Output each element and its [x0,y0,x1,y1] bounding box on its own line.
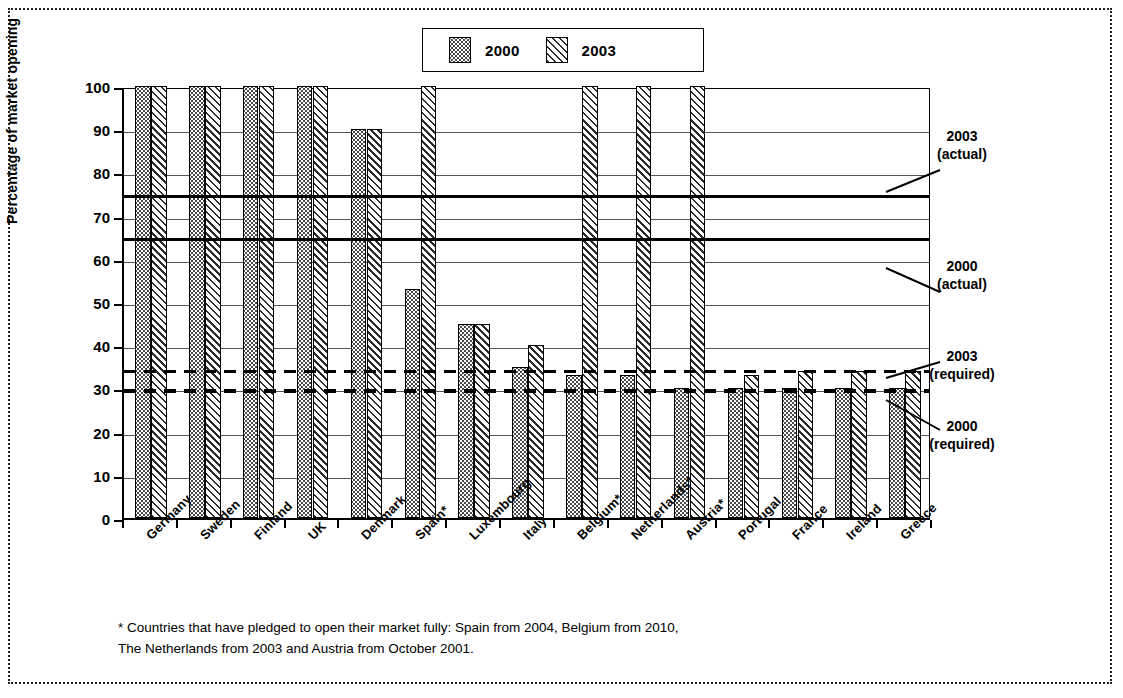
y-tick-label: 90 [66,122,110,139]
bar-group [782,371,814,518]
bar-denmark-2000 [351,129,367,518]
bar-luxembourg-2000 [458,324,474,518]
annotation-year: 2003 [937,128,987,146]
bar-france-2003 [798,371,814,518]
bar-group [458,324,490,518]
x-tick-mark [768,520,770,528]
x-tick-mark [553,520,555,528]
bar-ireland-2003 [851,371,867,518]
bar-group [566,86,598,518]
footnote-line-1: * Countries that have pledged to open th… [118,618,818,639]
bar-france-2000 [782,388,798,518]
bar-denmark-2003 [367,129,383,518]
bar-germany-2000 [135,86,151,518]
bar-sweden-2003 [205,86,221,518]
x-tick-mark [122,520,124,528]
annotation-qualifier: (actual) [937,276,987,294]
bar-spain-2000 [405,289,421,518]
x-tick-mark [661,520,663,528]
bar-uk-2000 [297,86,313,518]
y-tick-mark [114,88,122,90]
y-tick-label: 40 [66,338,110,355]
y-tick-mark [114,304,122,306]
x-tick-mark [930,520,932,528]
bar-greece-2000 [889,388,905,518]
bar-group [728,375,760,518]
bar-group [674,86,706,518]
annotation-year: 2000 [937,258,987,276]
y-tick-label: 60 [66,252,110,269]
reference-line-2003-required- [124,370,929,374]
figure-frame: 2000 2003 Percentage of market opening 0… [8,8,1112,684]
x-tick-mark [607,520,609,528]
x-tick-mark [391,520,393,528]
bar-netherlands-2000 [620,375,636,518]
y-tick-mark [114,477,122,479]
bar-group [835,371,867,518]
x-tick-mark [176,520,178,528]
bar-group [405,86,437,518]
y-tick-mark [114,347,122,349]
x-axis-label-uk: UK [305,518,329,542]
annotation-year: 2000 [929,418,994,436]
y-tick-mark [114,434,122,436]
bar-belgium-2003 [582,86,598,518]
bar-group [351,129,383,518]
bar-group [243,86,275,518]
x-tick-mark [822,520,824,528]
x-tick-mark [284,520,286,528]
y-tick-label: 50 [66,295,110,312]
y-tick-mark [114,520,122,522]
bar-germany-2003 [151,86,167,518]
bar-greece-2003 [905,371,921,518]
y-tick-label: 10 [66,468,110,485]
reference-line-2003-actual- [124,195,929,198]
annotation-a2000actual: 2000(actual) [937,258,987,294]
bar-netherlands-2003 [636,86,652,518]
reference-line-2000-actual- [124,238,929,241]
footnote-line-2: The Netherlands from 2003 and Austria fr… [118,639,818,660]
x-tick-mark [499,520,501,528]
y-tick-label: 70 [66,209,110,226]
annotation-a2003actual: 2003(actual) [937,128,987,164]
bar-portugal-2000 [728,388,744,518]
y-tick-label: 100 [66,79,110,96]
bar-luxembourg-2003 [474,324,490,518]
annotation-qualifier: (required) [929,366,994,384]
y-tick-mark [114,131,122,133]
y-tick-label: 20 [66,425,110,442]
annotation-year: 2003 [929,348,994,366]
y-axis-label: Percentage of market opening [4,18,20,224]
y-tick-label: 80 [66,165,110,182]
bar-group [620,86,652,518]
annotation-a2003required: 2003(required) [929,348,994,384]
x-tick-mark [230,520,232,528]
annotation-qualifier: (actual) [937,146,987,164]
bar-sweden-2000 [189,86,205,518]
y-tick-label: 0 [66,511,110,528]
x-tick-mark [715,520,717,528]
bar-group [889,371,921,518]
reference-line-2000-required- [124,389,929,393]
bar-finland-2003 [259,86,275,518]
x-tick-mark [876,520,878,528]
bar-austria-2003 [690,86,706,518]
bar-group [189,86,221,518]
footnote: * Countries that have pledged to open th… [118,618,818,660]
bar-group [135,86,167,518]
bar-spain-2003 [421,86,437,518]
plot-wrapper: Percentage of market opening 01020304050… [10,10,1114,686]
bar-uk-2003 [313,86,329,518]
y-tick-mark [114,174,122,176]
bar-belgium-2000 [566,375,582,518]
plot-area [122,88,930,520]
bar-finland-2000 [243,86,259,518]
annotation-qualifier: (required) [929,436,994,454]
y-tick-label: 30 [66,381,110,398]
bar-group [297,86,329,518]
bar-portugal-2003 [744,375,760,518]
x-tick-mark [445,520,447,528]
annotation-a2000required: 2000(required) [929,418,994,454]
bar-ireland-2000 [835,388,851,518]
y-tick-mark [114,390,122,392]
